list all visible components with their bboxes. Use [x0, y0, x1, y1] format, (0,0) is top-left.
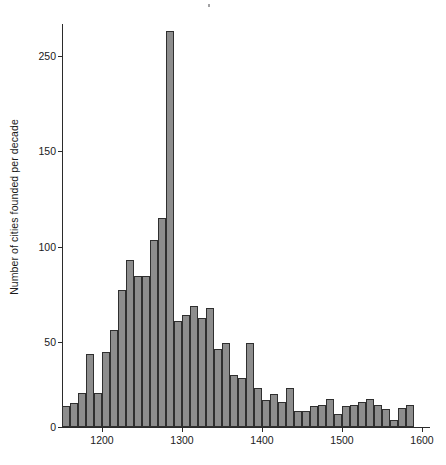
x-tick-label: 1500	[330, 434, 353, 446]
histogram-bar	[326, 399, 334, 427]
histogram-bar	[238, 378, 246, 427]
histogram-bar	[358, 402, 366, 427]
histogram-bar	[262, 400, 270, 427]
histogram-bar	[78, 393, 86, 427]
histogram-bar	[342, 406, 350, 427]
histogram-bar	[310, 406, 318, 427]
histogram-bar	[174, 321, 182, 427]
histogram-bar	[62, 406, 70, 427]
histogram-bar	[190, 306, 198, 427]
histogram-bar	[286, 388, 294, 427]
histogram-bar	[270, 394, 278, 427]
histogram-bar	[246, 343, 254, 427]
histogram-bar	[158, 218, 166, 427]
histogram-bar	[110, 330, 118, 427]
x-tick-label: 1300	[170, 434, 193, 446]
histogram-bar	[142, 276, 150, 427]
histogram-bar	[334, 414, 342, 427]
histogram-bar	[302, 411, 310, 427]
y-tick-label: 0	[50, 421, 56, 433]
histogram-bar	[150, 240, 158, 427]
histogram-bar	[102, 352, 110, 427]
x-tick-label: 1600	[410, 434, 433, 446]
histogram-bar	[198, 318, 206, 427]
histogram-bar	[254, 388, 262, 427]
plot-area: 050100150250 12001300140015001600	[62, 24, 430, 428]
histogram-bar	[406, 405, 414, 427]
histogram-bar	[118, 290, 126, 427]
histogram-bar	[318, 405, 326, 427]
y-tick-label: 50	[44, 336, 56, 348]
histogram-bar	[366, 399, 374, 427]
histogram-bar	[166, 31, 174, 427]
y-tick-label: 150	[38, 145, 56, 157]
histogram-bar	[94, 393, 102, 427]
histogram-bar	[134, 276, 142, 427]
histogram-bar	[126, 260, 134, 427]
histogram-bar	[374, 405, 382, 427]
scan-artifact-speck	[208, 4, 210, 7]
histogram-figure: Number of cities founded per decade 0501…	[0, 0, 446, 465]
histogram-bar	[294, 411, 302, 427]
histogram-bar	[382, 409, 390, 427]
x-tick-label: 1400	[250, 434, 273, 446]
y-tick-label: 250	[38, 50, 56, 62]
histogram-bar	[206, 308, 214, 427]
histogram-bar	[182, 315, 190, 427]
histogram-bar	[350, 405, 358, 427]
histogram-bar	[214, 349, 222, 427]
histogram-bar	[86, 354, 94, 427]
histogram-bar	[398, 408, 406, 427]
histogram-bar	[230, 375, 238, 427]
histogram-bar	[278, 402, 286, 427]
bar-group	[62, 24, 430, 428]
x-tick-label: 1200	[90, 434, 113, 446]
y-axis-label: Number of cities founded per decade	[8, 92, 22, 322]
histogram-bar	[222, 343, 230, 427]
y-tick-label: 100	[38, 241, 56, 253]
histogram-bar	[70, 403, 78, 427]
histogram-bar	[390, 420, 398, 427]
